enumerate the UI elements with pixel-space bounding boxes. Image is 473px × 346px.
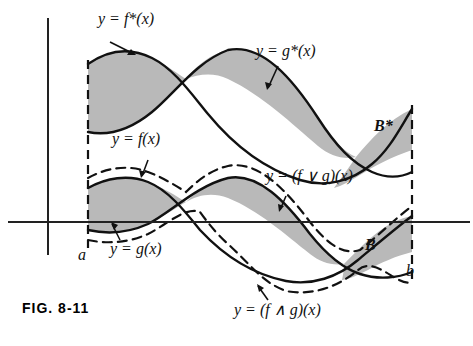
shaded-area-b-middle: [186, 177, 344, 264]
label-region-b-star: B*: [374, 117, 393, 135]
lower-region-group: [88, 165, 412, 292]
leader-meet-head: [257, 284, 264, 292]
shaded-area-b-star-middle: [186, 49, 356, 158]
label-curve-g-star: y = g*(x): [256, 42, 316, 60]
upper-region-group: [88, 49, 412, 188]
label-endpoint-b: b: [406, 262, 414, 280]
shaded-area-b-left: [88, 178, 186, 232]
label-curve-f: y = f(x): [112, 130, 160, 148]
label-curve-join: y = (f ∨ g)(x): [266, 166, 353, 185]
figure-8-11: [0, 0, 473, 346]
label-curve-f-star: y = f*(x): [98, 10, 154, 28]
figure-caption: FIG. 8-11: [22, 300, 89, 316]
label-curve-meet: y = (f ∧ g)(x): [234, 300, 321, 319]
label-region-b: B: [365, 236, 376, 254]
label-curve-g: y = g(x): [110, 240, 162, 258]
label-endpoint-a: a: [78, 246, 86, 264]
